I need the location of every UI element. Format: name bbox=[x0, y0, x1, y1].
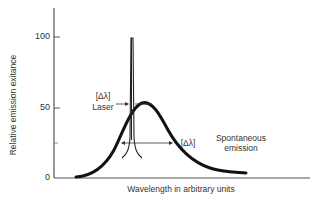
laser-label: Laser bbox=[88, 102, 118, 112]
y-axis-label: Relative emission exitance bbox=[8, 40, 18, 170]
spontaneous-delta-label: [Δλ] bbox=[174, 138, 202, 148]
spontaneous-label-line2: emission bbox=[206, 143, 276, 153]
laser-arrowhead-icon bbox=[125, 102, 129, 106]
emission-chart: Relative emission exitance 100 50 0 [Δλ]… bbox=[0, 0, 322, 207]
fwhm-arrowhead-right-icon bbox=[169, 141, 173, 145]
y-tick-label-0: 0 bbox=[20, 172, 50, 182]
y-tick-label-100: 100 bbox=[20, 31, 50, 41]
y-tick-label-50: 50 bbox=[20, 102, 50, 112]
fwhm-arrowhead-left-icon bbox=[121, 141, 125, 145]
x-axis-label: Wavelength in arbitrary units bbox=[0, 184, 322, 194]
laser-delta-label: [Δλ] bbox=[88, 91, 118, 101]
spontaneous-label-line1: Spontaneous bbox=[206, 133, 276, 143]
